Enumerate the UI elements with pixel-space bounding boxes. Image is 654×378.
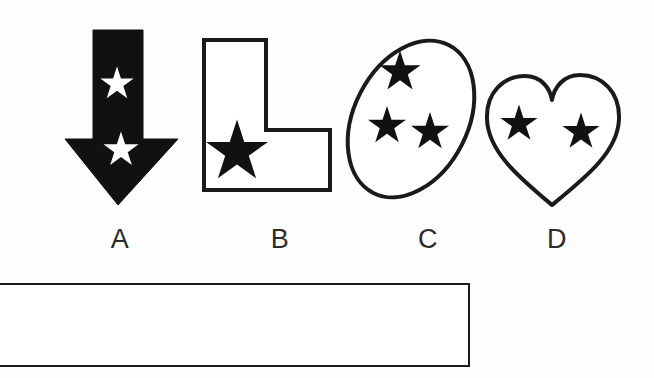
option-label-c[interactable]: C <box>408 224 448 254</box>
option-c-star-1 <box>380 51 421 90</box>
option-label-d[interactable]: D <box>537 224 577 254</box>
option-d-shape <box>487 75 619 205</box>
option-c-star-2 <box>368 106 406 142</box>
option-a-star-2 <box>103 132 138 165</box>
option-b-shape <box>204 40 330 190</box>
figure-canvas: A B C D <box>0 0 654 378</box>
option-a-shape <box>65 30 178 205</box>
option-label-b[interactable]: B <box>260 224 300 254</box>
option-b-star-1 <box>206 120 268 179</box>
option-label-a[interactable]: A <box>100 224 140 254</box>
answer-rectangle[interactable] <box>0 283 470 367</box>
option-d-star-2 <box>562 113 599 148</box>
option-d-star-1 <box>500 105 537 140</box>
option-c-star-3 <box>411 112 449 148</box>
option-c-shape <box>323 19 500 219</box>
option-a-star-1 <box>100 67 133 99</box>
